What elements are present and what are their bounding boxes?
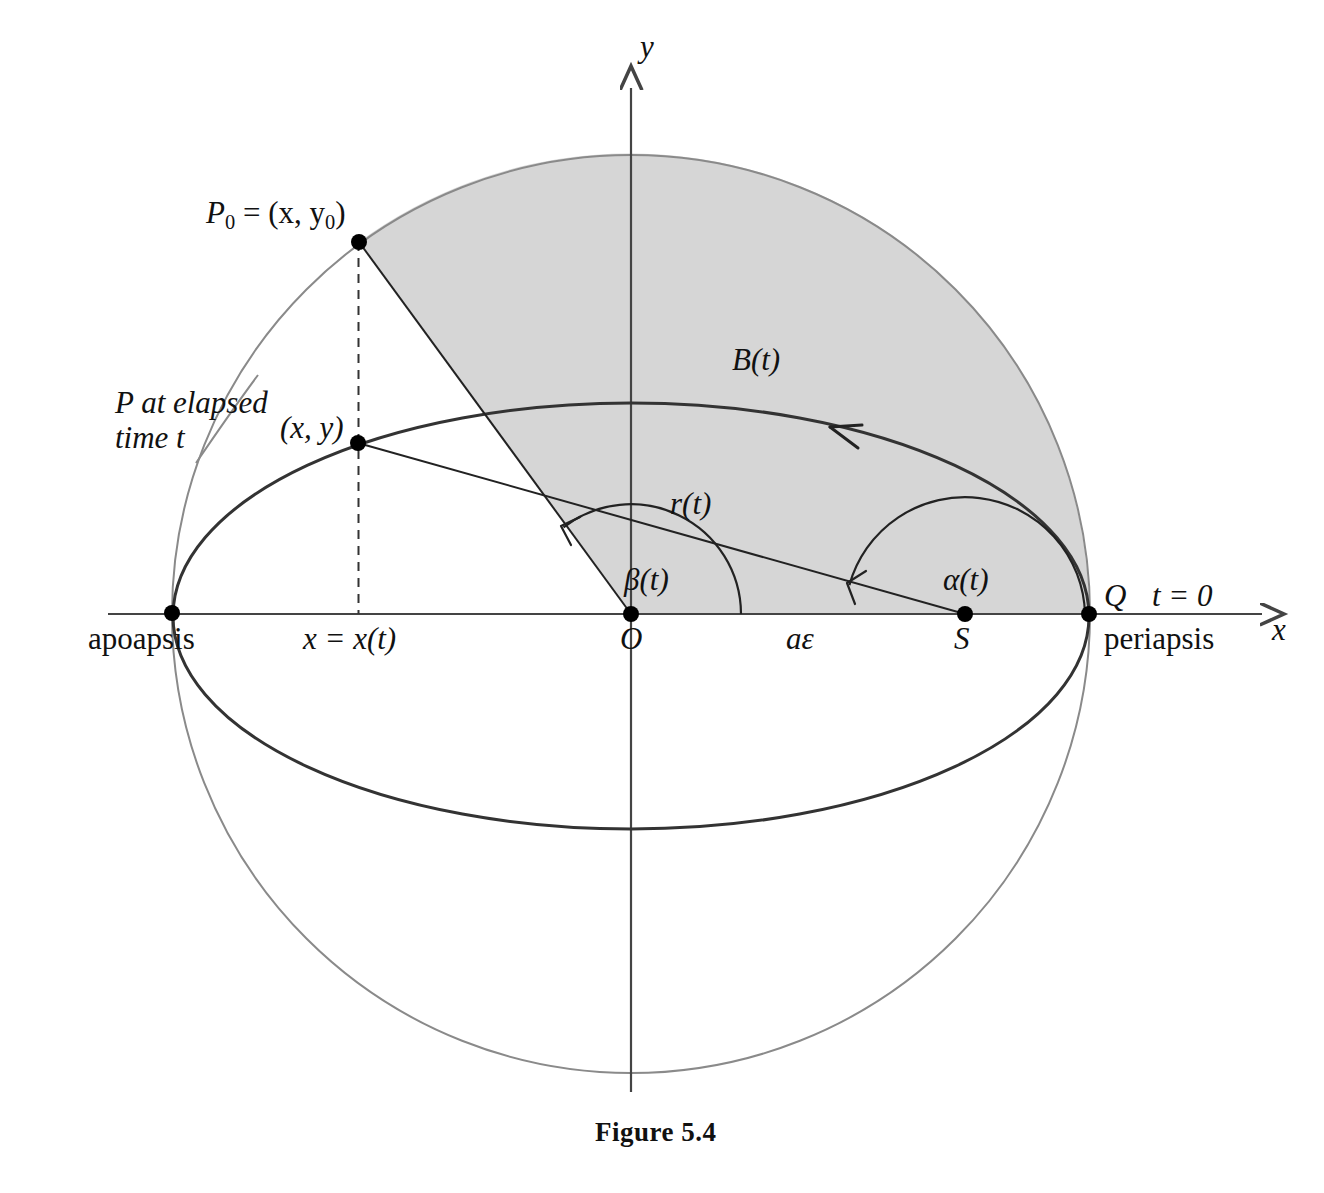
figure-5-4: y x P0 = (x, y0) P at elapsed time t (x,… — [0, 0, 1324, 1193]
p-elapsed-text1: P at elapsed — [115, 385, 268, 420]
p-elapsed-text2: time t — [115, 420, 185, 455]
figure-caption: Figure 5.4 — [595, 1117, 717, 1148]
p0-close-paren: ) — [335, 195, 345, 230]
r-of-t-label: r(t) — [670, 487, 711, 522]
origin-label: O — [620, 622, 642, 657]
point-apoapsis — [164, 605, 180, 621]
point-focus-s — [957, 606, 973, 622]
periapsis-word-label: periapsis — [1104, 622, 1214, 657]
alpha-of-t-label: α(t) — [943, 563, 989, 598]
p0-y-subscript: 0 — [325, 211, 335, 233]
p0-symbol: P — [206, 195, 225, 230]
xy-point-label: (x, y) — [280, 411, 344, 446]
swept-area-region — [359, 153, 1089, 614]
point-p0 — [351, 234, 367, 250]
y-axis-label: y — [640, 30, 654, 65]
focus-label: S — [954, 622, 970, 657]
x-of-t-label: x = x(t) — [303, 622, 396, 657]
b-of-t-label: B(t) — [732, 343, 780, 378]
p-elapsed-label-line2: time t — [115, 421, 185, 456]
time-zero-label: t = 0 — [1152, 579, 1213, 614]
point-xy — [350, 435, 366, 451]
x-axis-label: x — [1272, 613, 1286, 648]
p0-equals-open: = (x, y — [235, 195, 325, 230]
swept-area-fill — [359, 153, 1089, 614]
apoapsis-word-label: apoapsis — [88, 622, 195, 657]
p-elapsed-label-line1: P at elapsed — [115, 386, 268, 421]
p0-point-label: P0 = (x, y0) — [206, 196, 346, 234]
periapsis-point-label: Q — [1104, 579, 1126, 614]
beta-of-t-label: β(t) — [624, 563, 669, 598]
point-origin-o — [623, 606, 639, 622]
a-epsilon-label: aε — [786, 622, 814, 657]
point-periapsis-q — [1081, 606, 1097, 622]
p0-subscript: 0 — [225, 211, 235, 233]
